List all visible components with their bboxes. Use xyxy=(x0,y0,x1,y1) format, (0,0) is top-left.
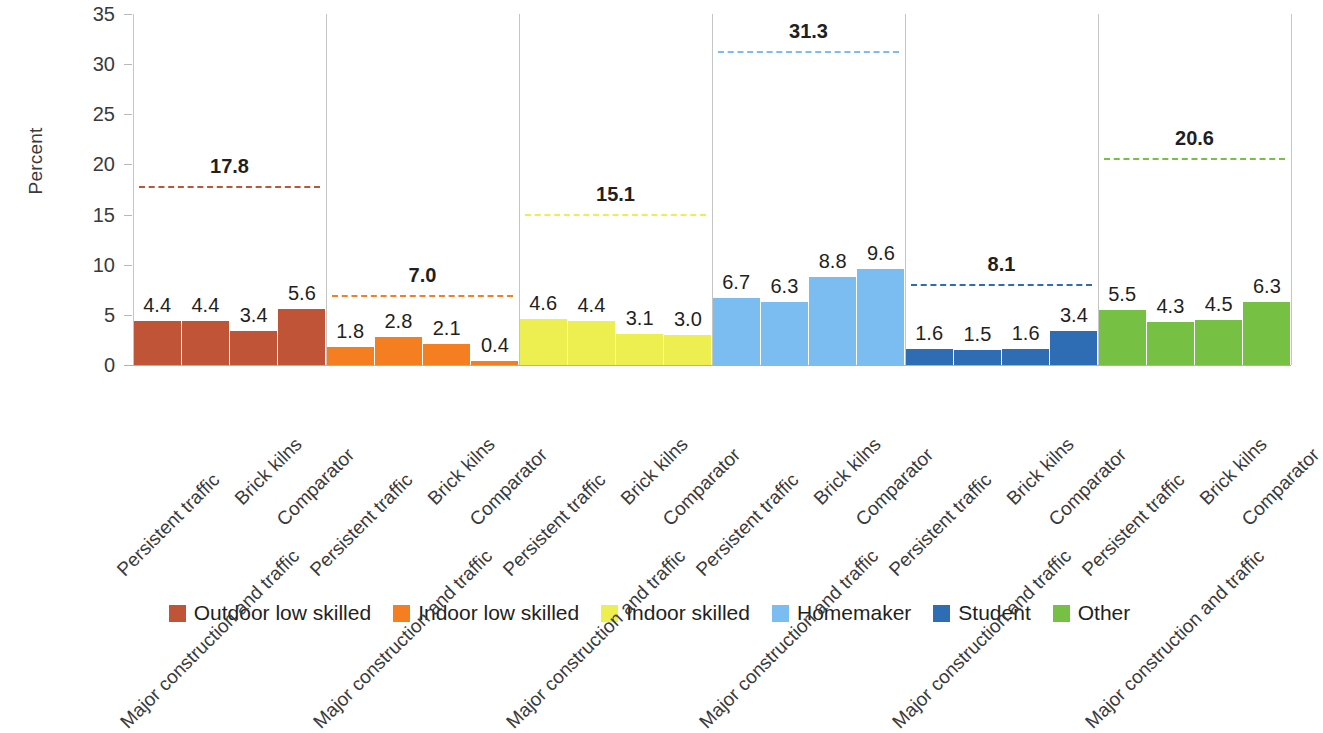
y-tick-mark xyxy=(124,215,132,216)
bar-value-label: 6.3 xyxy=(770,275,798,298)
y-tick-label: 15 xyxy=(71,203,115,226)
legend-item: Outdoor low skilled xyxy=(169,601,371,625)
reference-line xyxy=(718,51,899,53)
bar xyxy=(1050,331,1097,365)
x-axis-label: Major construction and traffic xyxy=(888,545,1076,733)
legend-label: Other xyxy=(1078,601,1131,625)
legend-item: Other xyxy=(1053,601,1131,625)
bar-value-label: 3.4 xyxy=(240,304,268,327)
y-tick-mark xyxy=(124,114,132,115)
y-axis-title: Percent xyxy=(25,101,47,221)
reference-line xyxy=(139,186,320,188)
reference-line xyxy=(525,214,706,216)
y-tick-mark xyxy=(124,265,132,266)
y-axis-spine xyxy=(133,14,134,365)
plot-area: 17.84.44.43.45.67.01.82.82.10.415.14.64.… xyxy=(133,14,1291,365)
x-axis-label: Major construction and traffic xyxy=(1081,545,1269,733)
bar xyxy=(134,321,181,365)
bar-value-label: 2.1 xyxy=(433,317,461,340)
bar xyxy=(1243,302,1290,365)
reference-line-label: 17.8 xyxy=(210,155,249,178)
plot-right-spine xyxy=(1291,14,1292,365)
y-tick-label: 0 xyxy=(71,354,115,377)
bar xyxy=(616,334,663,365)
bar-value-label: 5.6 xyxy=(288,282,316,305)
panel-separator xyxy=(905,14,906,365)
bar-value-label: 5.5 xyxy=(1108,283,1136,306)
bar xyxy=(423,344,470,365)
bar-value-label: 4.5 xyxy=(1205,293,1233,316)
bar-value-label: 8.8 xyxy=(819,250,847,273)
x-axis-baseline xyxy=(124,365,1291,366)
bar-value-label: 3.0 xyxy=(674,308,702,331)
legend-swatch-icon xyxy=(169,605,186,622)
bar-value-label: 1.6 xyxy=(1012,322,1040,345)
legend-swatch-icon xyxy=(933,605,950,622)
bar xyxy=(664,335,711,365)
legend-swatch-icon xyxy=(1053,605,1070,622)
bar-value-label: 2.8 xyxy=(384,310,412,333)
x-axis-label: Major construction and traffic xyxy=(502,545,690,733)
bar-value-label: 4.6 xyxy=(529,292,557,315)
bar xyxy=(230,331,277,365)
y-tick-label: 5 xyxy=(71,303,115,326)
bar-value-label: 1.6 xyxy=(915,322,943,345)
y-tick-label: 25 xyxy=(71,103,115,126)
bar-value-label: 0.4 xyxy=(481,334,509,357)
reference-line xyxy=(1104,158,1285,160)
bar-value-label: 4.4 xyxy=(143,294,171,317)
bar xyxy=(375,337,422,365)
y-tick-mark xyxy=(124,14,132,15)
y-tick-mark xyxy=(124,64,132,65)
x-axis-label: Major construction and traffic xyxy=(116,545,304,733)
bar-value-label: 3.1 xyxy=(626,307,654,330)
y-tick-label: 20 xyxy=(71,153,115,176)
bar xyxy=(954,350,1001,365)
bar xyxy=(857,269,904,365)
reference-line-label: 31.3 xyxy=(789,20,828,43)
bar-value-label: 6.3 xyxy=(1253,275,1281,298)
bar-value-label: 4.3 xyxy=(1156,295,1184,318)
bar xyxy=(1002,349,1049,365)
bar-value-label: 1.5 xyxy=(963,323,991,346)
y-tick-mark xyxy=(124,315,132,316)
legend-swatch-icon xyxy=(772,605,789,622)
bar xyxy=(713,298,760,365)
reference-line-label: 8.1 xyxy=(988,253,1016,276)
x-axis-label: Major construction and traffic xyxy=(695,545,883,733)
reference-line-label: 15.1 xyxy=(596,183,635,206)
panel-separator xyxy=(326,14,327,365)
bar-value-label: 4.4 xyxy=(191,294,219,317)
bar xyxy=(278,309,325,365)
y-tick-label: 10 xyxy=(71,253,115,276)
bar xyxy=(809,277,856,365)
bar xyxy=(568,321,615,365)
bar-value-label: 9.6 xyxy=(867,242,895,265)
y-tick-label: 30 xyxy=(71,53,115,76)
x-axis-label: Major construction and traffic xyxy=(309,545,497,733)
reference-line-label: 20.6 xyxy=(1175,127,1214,150)
bar-value-label: 1.8 xyxy=(336,320,364,343)
bar xyxy=(182,321,229,365)
chart-legend: Outdoor low skilledIndoor low skilledInd… xyxy=(0,601,1299,625)
bar xyxy=(761,302,808,365)
x-axis-label: Persistent traffic xyxy=(113,469,225,581)
bar-value-label: 4.4 xyxy=(577,294,605,317)
reference-line xyxy=(332,295,513,297)
bar xyxy=(520,319,567,365)
panel-separator xyxy=(519,14,520,365)
bar xyxy=(1147,322,1194,365)
bar xyxy=(906,349,953,365)
bar-value-label: 3.4 xyxy=(1060,304,1088,327)
y-tick-label: 35 xyxy=(71,3,115,26)
bar xyxy=(1195,320,1242,365)
reference-line xyxy=(911,284,1092,286)
reference-line-label: 7.0 xyxy=(409,264,437,287)
bar-value-label: 6.7 xyxy=(722,271,750,294)
bar xyxy=(327,347,374,365)
y-tick-mark xyxy=(124,164,132,165)
bar xyxy=(1099,310,1146,365)
